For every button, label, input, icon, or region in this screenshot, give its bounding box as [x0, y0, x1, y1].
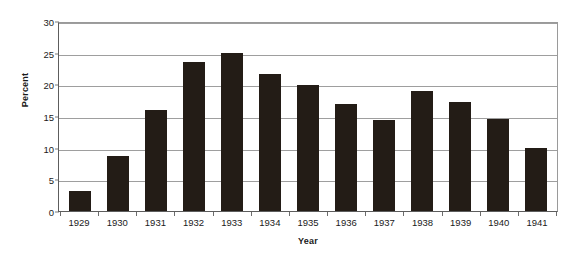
x-axis-tick-mark: [327, 212, 328, 216]
x-axis-tick-mark: [556, 212, 557, 216]
x-axis-tick-label: 1931: [136, 217, 174, 231]
x-axis-tick-labels: 1929193019311932193319341935193619371938…: [58, 217, 558, 231]
bar-slot: [99, 23, 137, 211]
x-axis-tick-mark: [174, 212, 175, 216]
bar-slot: [479, 23, 517, 211]
y-axis-tick-label: 20: [30, 80, 54, 91]
chart-figure: Percent 051015202530 1929193019311932193…: [0, 0, 570, 260]
plot-area: [58, 22, 558, 212]
x-axis-tick-label: 1937: [365, 217, 403, 231]
bar-slot: [251, 23, 289, 211]
bar[interactable]: [525, 148, 547, 211]
y-axis-tick-label: 5: [30, 175, 54, 186]
x-axis-tick-mark: [60, 212, 61, 216]
x-axis-tick-label: 1938: [403, 217, 441, 231]
x-axis-tick-label: 1936: [327, 217, 365, 231]
bar[interactable]: [411, 91, 433, 211]
bar-slot: [213, 23, 251, 211]
y-axis-tick-label: 25: [30, 48, 54, 59]
bar-slot: [175, 23, 213, 211]
x-axis-tick-mark: [480, 212, 481, 216]
x-axis-tick-label: 1930: [98, 217, 136, 231]
x-axis-tick-mark: [442, 212, 443, 216]
x-axis-title: Year: [58, 236, 558, 246]
bar[interactable]: [145, 110, 167, 211]
bar-slot: [403, 23, 441, 211]
bar[interactable]: [297, 85, 319, 211]
bar-slot: [327, 23, 365, 211]
x-axis-tick-mark: [289, 212, 290, 216]
x-axis-tick-label: 1934: [251, 217, 289, 231]
x-axis-tick-mark: [136, 212, 137, 216]
x-axis-tick-label: 1941: [518, 217, 556, 231]
bar[interactable]: [259, 74, 281, 211]
y-axis-tick-label: 10: [30, 143, 54, 154]
x-axis-tick-label: 1935: [289, 217, 327, 231]
x-axis-tick-mark: [365, 212, 366, 216]
x-axis-tick-label: 1932: [174, 217, 212, 231]
bar[interactable]: [373, 120, 395, 211]
bar-series: [59, 23, 557, 211]
y-axis-tick-label: 0: [30, 207, 54, 218]
y-axis-tick-label: 15: [30, 112, 54, 123]
x-axis-tick-label: 1939: [442, 217, 480, 231]
bar[interactable]: [183, 62, 205, 211]
x-axis-tick-mark: [98, 212, 99, 216]
bar[interactable]: [221, 53, 243, 211]
bar-slot: [289, 23, 327, 211]
x-axis-tick-label: 1940: [480, 217, 518, 231]
bar-slot: [365, 23, 403, 211]
bar-slot: [61, 23, 99, 211]
x-axis-tick-label: 1929: [60, 217, 98, 231]
bar[interactable]: [107, 156, 129, 211]
bar[interactable]: [449, 102, 471, 211]
bar[interactable]: [487, 119, 509, 211]
x-axis-tick-label: 1933: [213, 217, 251, 231]
bar[interactable]: [335, 104, 357, 211]
x-axis-tick-mark: [518, 212, 519, 216]
x-axis-tick-mark: [251, 212, 252, 216]
bar[interactable]: [69, 191, 91, 211]
y-axis-tick-label: 30: [30, 17, 54, 28]
bar-slot: [517, 23, 555, 211]
bar-slot: [137, 23, 175, 211]
x-axis-tick-mark: [213, 212, 214, 216]
y-axis-tick-labels: 051015202530: [30, 22, 54, 212]
bar-slot: [441, 23, 479, 211]
x-axis-tick-mark: [403, 212, 404, 216]
